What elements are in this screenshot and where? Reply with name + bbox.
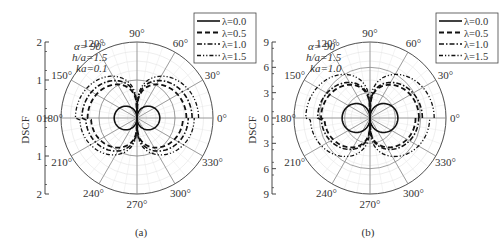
radial-tick-label: 1: [37, 150, 43, 162]
y-axis-label: DSCF: [246, 116, 258, 144]
panel-caption: (a): [135, 226, 148, 239]
legend: λ=0.0λ=0.5λ=1.0λ=1.5: [436, 13, 498, 63]
angle-tick-label: 0°: [450, 112, 460, 124]
angle-tick-label: 60°: [406, 37, 421, 49]
angle-tick-label: 270°: [127, 198, 148, 210]
angle-tick-label: 300°: [170, 187, 191, 199]
parameter-label: ka=1.0: [310, 62, 342, 74]
angle-tick-label: 330°: [202, 156, 223, 168]
legend-entry: λ=0.5: [464, 28, 488, 39]
radial-tick-label: 6: [264, 61, 270, 73]
radial-tick-label: 0: [37, 112, 43, 124]
legend-entry: λ=1.0: [464, 39, 488, 50]
angle-tick-label: 30°: [438, 69, 453, 81]
angle-tick-label: 210°: [51, 156, 72, 168]
angle-tick-label: 30°: [205, 69, 220, 81]
radial-tick-label: 0: [264, 112, 270, 124]
legend-entry: λ=0.0: [464, 16, 488, 27]
angle-tick-label: 90°: [362, 27, 377, 39]
radial-tick-label: 1: [37, 74, 43, 86]
angle-tick-label: 60°: [173, 37, 188, 49]
angle-tick-label: 150°: [51, 69, 72, 81]
radial-tick-label: 6: [264, 163, 270, 175]
legend-entry: λ=0.5: [222, 28, 246, 39]
radial-tick-label: 9: [264, 36, 270, 48]
angle-tick-label: 330°: [435, 156, 456, 168]
radial-tick-label: 9: [264, 188, 270, 200]
legend-entry: λ=1.5: [464, 51, 488, 62]
angle-tick-label: 300°: [403, 187, 424, 199]
angle-tick-label: 180°: [275, 112, 296, 124]
angle-tick-label: 0°: [217, 112, 227, 124]
radial-tick-label: 2: [37, 188, 43, 200]
legend: λ=0.0λ=0.5λ=1.0λ=1.5: [194, 13, 256, 63]
legend-entry: λ=1.0: [222, 39, 246, 50]
angle-tick-label: 240°: [316, 187, 337, 199]
figure: 0°30°60°90°120°150°180°210°240°270°300°3…: [0, 0, 504, 246]
radial-tick-label: 2: [37, 36, 43, 48]
angle-tick-label: 150°: [284, 69, 305, 81]
polar-chart-b: 0°30°60°90°120°150°180°210°240°270°300°3…: [246, 13, 498, 239]
radial-tick-label: 3: [264, 87, 270, 99]
polar-chart-a: 0°30°60°90°120°150°180°210°240°270°300°3…: [19, 13, 256, 239]
panel-caption: (b): [362, 226, 375, 239]
parameter-label: ka=0.1: [76, 62, 108, 74]
y-axis-label: DSCF: [19, 116, 31, 144]
legend-entry: λ=0.0: [222, 16, 246, 27]
legend-entry: λ=1.5: [222, 51, 246, 62]
angle-tick-label: 210°: [284, 156, 305, 168]
angle-tick-label: 270°: [360, 198, 381, 210]
angle-tick-label: 90°: [129, 27, 144, 39]
radial-tick-label: 3: [264, 137, 270, 149]
angle-tick-label: 240°: [83, 187, 104, 199]
